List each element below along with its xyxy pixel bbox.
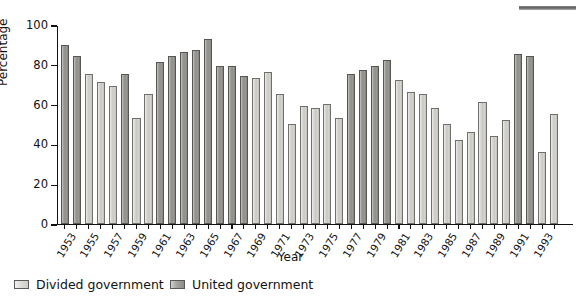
y-axis-tick-label: 20: [33, 179, 48, 191]
plot-area: [57, 26, 573, 225]
x-axis-tick: [196, 225, 197, 229]
bar-1986: [455, 140, 463, 224]
y-axis-tick-label: 40: [33, 139, 48, 151]
bar-1975: [323, 104, 331, 223]
bar-1991: [514, 54, 522, 223]
bar-1969: [252, 78, 260, 223]
y-axis-title: Percentage: [0, 18, 10, 86]
x-axis-tick: [76, 225, 77, 229]
x-axis-tick: [482, 225, 483, 229]
x-axis-tick: [172, 225, 173, 229]
bar-1988: [478, 102, 486, 223]
x-axis-tick: [160, 225, 161, 229]
legend-swatch-divided-icon: [14, 280, 29, 289]
x-axis-tick: [387, 225, 388, 229]
x-axis-tick: [100, 225, 101, 229]
x-axis-tick: [112, 225, 113, 229]
x-axis-tick: [220, 225, 221, 229]
bar-1967: [228, 66, 236, 223]
bar-1958: [121, 74, 129, 223]
y-axis-tick-label: 0: [41, 219, 48, 231]
x-axis-tick: [184, 225, 185, 229]
bar-1981: [395, 80, 403, 223]
bar-1966: [216, 66, 224, 223]
bar-1961: [156, 62, 164, 223]
x-axis-tick: [530, 225, 531, 229]
bar-1993: [538, 152, 546, 224]
bar-1957: [109, 86, 117, 223]
bar-series-group: [58, 26, 573, 224]
x-axis-tick: [339, 225, 340, 229]
y-axis-tick: [51, 65, 57, 66]
x-axis-tick: [446, 225, 447, 229]
legend-item-divided: Divided government: [14, 277, 164, 292]
x-axis-tick: [303, 225, 304, 229]
bar-1994: [550, 114, 558, 223]
y-axis-tick-label: 60: [33, 100, 48, 112]
bar-1980: [383, 60, 391, 223]
bar-1962: [168, 56, 176, 223]
x-axis-tick: [243, 225, 244, 229]
x-axis-tick: [506, 225, 507, 229]
bar-1955: [85, 74, 93, 223]
bar-1983: [419, 94, 427, 223]
x-axis-tick: [255, 225, 256, 229]
bar-1976: [335, 118, 343, 223]
scan-artifact-line: [519, 6, 576, 10]
x-axis-tick: [231, 225, 232, 229]
bar-1956: [97, 82, 105, 223]
bar-1970: [264, 72, 272, 223]
x-axis-tick: [327, 225, 328, 229]
x-axis-tick: [494, 225, 495, 229]
bar-1985: [443, 124, 451, 224]
x-axis-tick: [208, 225, 209, 229]
bar-1972: [288, 124, 296, 224]
y-axis-tick: [51, 224, 57, 225]
bar-1974: [311, 108, 319, 223]
bar-1971: [276, 94, 284, 223]
bar-1963: [180, 52, 188, 223]
bar-1989: [490, 136, 498, 224]
x-axis-tick: [375, 225, 376, 229]
legend-label-united: United government: [192, 277, 313, 292]
bar-1954: [73, 56, 81, 223]
bar-1953: [61, 45, 69, 224]
x-axis-tick: [422, 225, 423, 229]
x-axis-tick: [64, 225, 65, 229]
y-axis-tick: [51, 25, 57, 26]
x-axis-ticks: [58, 225, 573, 230]
x-axis-tick: [267, 225, 268, 229]
bar-1979: [371, 66, 379, 223]
legend-item-united: United government: [170, 277, 313, 292]
bar-1960: [144, 94, 152, 223]
bar-1959: [132, 118, 140, 223]
bar-1973: [300, 106, 308, 223]
legend-swatch-united-icon: [170, 280, 185, 289]
x-axis-title: Year: [0, 250, 581, 264]
bar-1990: [502, 120, 510, 223]
bar-1968: [240, 76, 248, 223]
x-axis-tick: [124, 225, 125, 229]
bar-1984: [431, 108, 439, 223]
x-axis-tick: [458, 225, 459, 229]
x-axis-tick: [315, 225, 316, 229]
x-axis-tick: [136, 225, 137, 229]
y-axis-tick: [51, 105, 57, 106]
bar-1978: [359, 70, 367, 223]
x-axis-tick: [554, 225, 555, 229]
bar-1987: [467, 132, 475, 224]
y-axis-tick-label: 80: [33, 60, 48, 72]
x-axis-tick: [542, 225, 543, 229]
y-axis-tick: [51, 145, 57, 146]
x-axis-tick: [398, 225, 399, 229]
legend-label-divided: Divided government: [36, 277, 164, 292]
x-axis-tick: [410, 225, 411, 229]
bar-1964: [192, 50, 200, 223]
x-axis-tick: [148, 225, 149, 229]
chart-figure: Percentage 020406080100 1953195519571959…: [0, 0, 581, 301]
bar-1982: [407, 92, 415, 223]
bar-1992: [526, 56, 534, 223]
x-axis-tick: [363, 225, 364, 229]
y-axis-tick-label: 100: [26, 20, 48, 32]
x-axis-tick: [518, 225, 519, 229]
